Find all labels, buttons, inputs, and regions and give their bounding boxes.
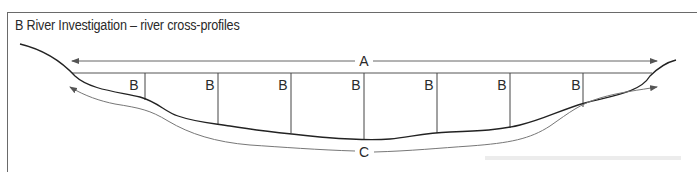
- label-b-2: B: [205, 77, 214, 93]
- label-b-3: B: [278, 77, 287, 93]
- width-arrow-a: A: [72, 53, 657, 69]
- label-b-4: B: [351, 77, 360, 93]
- label-a: A: [359, 53, 369, 69]
- label-b-1: B: [129, 77, 138, 93]
- label-c: C: [359, 144, 369, 160]
- label-b-7: B: [571, 77, 580, 93]
- footer-band: [485, 156, 681, 160]
- label-b-5: B: [424, 77, 433, 93]
- depth-labels: B B B B B B B: [129, 77, 580, 93]
- label-b-6: B: [497, 77, 506, 93]
